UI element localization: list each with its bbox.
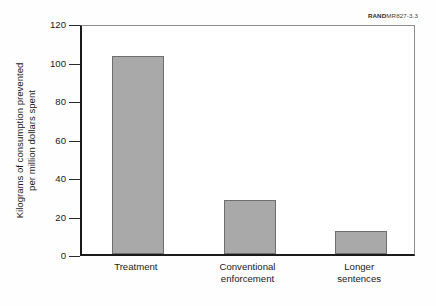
y-axis-tick-label: 100 bbox=[20, 59, 66, 69]
figure-canvas: RANDMR827-3.3 Kilograms of consumption p… bbox=[0, 0, 436, 306]
x-axis-label-conventional-enforcement: Conventionalenforcement bbox=[183, 261, 313, 286]
x-axis-label-line: Treatment bbox=[71, 261, 201, 273]
x-axis-label-line: enforcement bbox=[183, 273, 313, 285]
y-axis-tick-labels: 020406080100120 bbox=[0, 0, 66, 306]
y-axis-tick-label: 80 bbox=[20, 97, 66, 107]
y-axis-tick bbox=[69, 256, 80, 257]
source-label-brand: RAND bbox=[368, 12, 386, 19]
y-axis-tick bbox=[69, 218, 80, 219]
x-axis-label-treatment: Treatment bbox=[71, 261, 201, 273]
x-axis-category-labels: TreatmentConventionalenforcementLongerse… bbox=[80, 261, 415, 305]
y-axis-tick bbox=[69, 25, 80, 26]
x-axis-label-line: sentences bbox=[294, 273, 424, 285]
bar-longer-sentences bbox=[335, 231, 387, 254]
bar-treatment bbox=[112, 56, 164, 254]
x-axis-label-line: Conventional bbox=[183, 261, 313, 273]
x-axis-label-line: Longer bbox=[294, 261, 424, 273]
y-axis-tick bbox=[69, 179, 80, 180]
bar-conventional-enforcement bbox=[224, 200, 276, 254]
source-label: RANDMR827-3.3 bbox=[368, 13, 418, 19]
source-label-docid: MR827-3.3 bbox=[386, 12, 418, 19]
y-axis-tick bbox=[69, 141, 80, 142]
y-axis-tick bbox=[69, 102, 80, 103]
x-axis-label-longer-sentences: Longersentences bbox=[294, 261, 424, 286]
y-axis-tick-label: 0 bbox=[20, 251, 66, 261]
plot-area bbox=[80, 25, 415, 256]
y-axis-tick-label: 60 bbox=[20, 136, 66, 146]
y-axis-tick-label: 40 bbox=[20, 174, 66, 184]
y-axis-tick bbox=[69, 64, 80, 65]
y-axis-tick-label: 20 bbox=[20, 213, 66, 223]
y-axis-tick-label: 120 bbox=[20, 20, 66, 30]
